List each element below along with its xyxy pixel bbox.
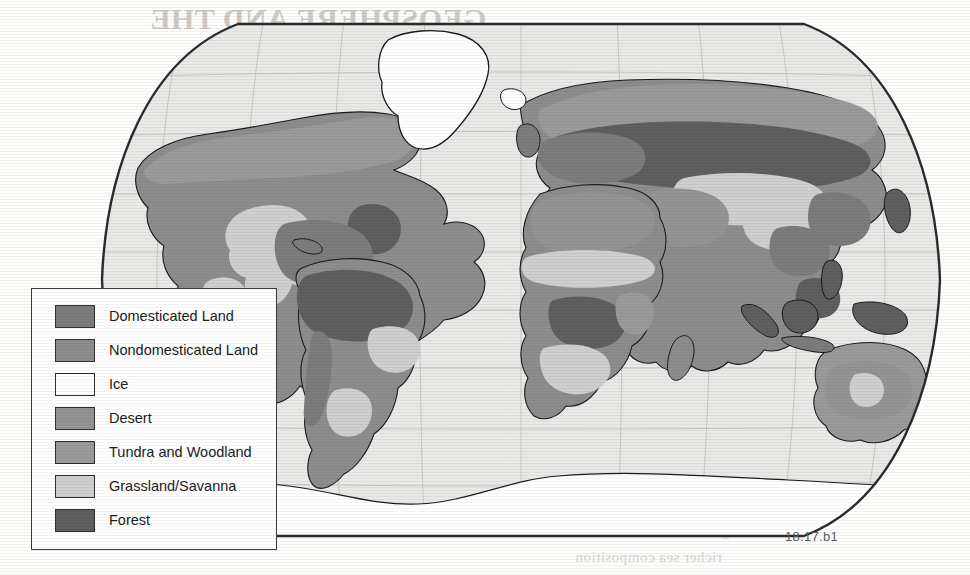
- figure-id-label: 18.17.b1: [785, 529, 838, 544]
- legend-label-grassland-savanna: Grassland/Savanna: [109, 479, 236, 494]
- legend-label-nondomesticated-land: Nondomesticated Land: [109, 343, 258, 358]
- legend-item-desert: Desert: [32, 401, 276, 435]
- legend-label-desert: Desert: [109, 411, 152, 426]
- legend-swatch-desert: [55, 407, 95, 430]
- region-british-isles: [517, 124, 540, 157]
- legend-swatch-grassland-savanna: [55, 475, 95, 498]
- region-borneo: [782, 300, 818, 333]
- region-eurasia-domesticated-europe: [538, 133, 646, 184]
- legend-item-forest: Forest: [32, 503, 276, 537]
- legend-label-domesticated-land: Domesticated Land: [109, 309, 234, 324]
- legend-swatch-ice: [55, 373, 95, 396]
- legend-item-domesticated-land: Domesticated Land: [32, 299, 276, 333]
- region-new-zealand: [932, 425, 954, 468]
- legend-item-ice: Ice: [32, 367, 276, 401]
- legend-swatch-forest: [55, 509, 95, 532]
- legend-label-ice: Ice: [109, 377, 128, 392]
- scanned-page: GEOSPHERE AND THE variation in the chara…: [0, 0, 970, 575]
- legend-swatch-domesticated-land: [55, 305, 95, 328]
- legend-item-nondomesticated-land: Nondomesticated Land: [32, 333, 276, 367]
- legend-label-forest: Forest: [109, 513, 150, 528]
- legend-swatch-nondomesticated-land: [55, 339, 95, 362]
- region-africa-sahel: [521, 250, 654, 288]
- map-legend: Domesticated Land Nondomesticated Land I…: [31, 288, 277, 550]
- legend-item-grassland-savanna: Grassland/Savanna: [32, 469, 276, 503]
- legend-item-tundra-and-woodland: Tundra and Woodland: [32, 435, 276, 469]
- bleed-through-bottom-line-3: richer sea composition: [575, 549, 722, 566]
- legend-swatch-tundra-and-woodland: [55, 441, 95, 464]
- legend-label-tundra-and-woodland: Tundra and Woodland: [109, 445, 252, 460]
